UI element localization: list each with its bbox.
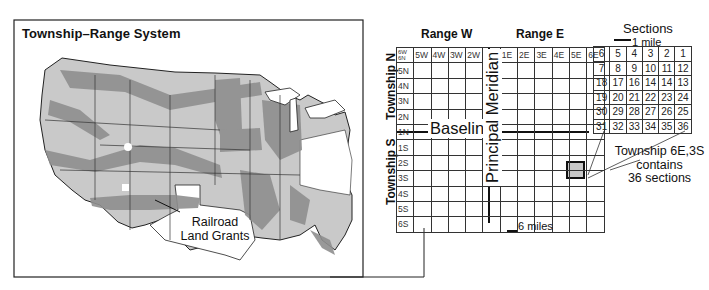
row-head: 4N (397, 78, 414, 93)
row-head: 3S (397, 171, 414, 186)
col-head: 4W (431, 48, 448, 63)
row-head: 2N (397, 109, 414, 124)
col-head: 2W (466, 48, 483, 63)
col-head: 4E (552, 48, 569, 63)
row-head: 1S (397, 140, 414, 155)
callout-line-2: contains (597, 159, 709, 173)
row-head: 1N (397, 124, 414, 139)
principal-meridian-label: Principal Meridian (483, 49, 502, 186)
row-head: 5N (397, 63, 414, 78)
callout-line-3: 36 sections (597, 172, 709, 186)
range-e-label: Range E (516, 27, 564, 41)
col-head: 2E (518, 48, 535, 63)
railroad-land-grants-label: Railroad Land Grants (180, 215, 250, 243)
annotation-line-2: Land Grants (180, 229, 250, 243)
six-mile-scale-label: 6 miles (518, 220, 553, 232)
annotation-line-1: Railroad (180, 215, 250, 229)
callout-line-1: Township 6E,3S (597, 145, 709, 159)
col-head: 3E (535, 48, 552, 63)
map-title: Township–Range System (22, 26, 181, 41)
township-callout: Township 6E,3S contains 36 sections (597, 145, 709, 186)
col-head: 1E (500, 48, 517, 63)
row-head: 5S (397, 201, 414, 216)
row-head: 3N (397, 94, 414, 109)
sections-grid: 654321 789101112 181716141413 1920212223… (593, 46, 692, 134)
col-head: 5W (414, 48, 431, 63)
row-head: 2S (397, 155, 414, 170)
sections-title: Sections (623, 21, 673, 36)
corner-cell: 6W6N (397, 48, 414, 63)
row-head: 4S (397, 186, 414, 201)
col-head: 3W (448, 48, 465, 63)
range-w-label: Range W (421, 27, 472, 41)
row-head: 6S (397, 217, 414, 232)
col-head: 5E (569, 48, 586, 63)
